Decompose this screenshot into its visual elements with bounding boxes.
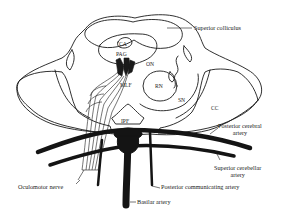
midbrain-outline (17, 15, 261, 135)
superior-cerebellar-artery (50, 145, 234, 165)
left-peduncle (17, 71, 112, 132)
label-superior-cerebellar-line2: artery (214, 172, 261, 179)
label-mlf: MLF (120, 83, 132, 89)
leader-oculomotor (76, 180, 80, 184)
label-basilar-artery: Basilar artery (137, 199, 171, 205)
label-oculomotor-nerve: Oculomotor nerve (18, 184, 63, 190)
left-inner-curve (55, 70, 90, 118)
label-posterior-communicating-artery: Posterior communicating artery (161, 184, 239, 190)
label-rn: RN (155, 84, 163, 90)
label-pag: PAG (116, 52, 127, 58)
left-communicating-branch (98, 140, 102, 185)
label-posterior-cerebral-line2: artery (218, 130, 262, 137)
label-superior-cerebellar-artery: Superior cerebellar artery (214, 165, 261, 178)
label-on: ON (146, 62, 154, 68)
label-ipf: IPF (121, 119, 129, 125)
label-cc: CC (211, 106, 218, 112)
right-ridge (183, 46, 191, 62)
label-sn: SN (178, 98, 185, 104)
posterior-communicating-artery (150, 132, 152, 185)
right-squiggle (174, 56, 178, 88)
label-superior-colliculus: Superior colliculus (194, 25, 241, 31)
label-posterior-cerebral-artery: Posterior cerebral artery (218, 123, 262, 136)
leader-posterior-communicating (152, 186, 160, 188)
oculomotor-nucleus (116, 58, 135, 76)
label-ca: CA (119, 42, 127, 48)
